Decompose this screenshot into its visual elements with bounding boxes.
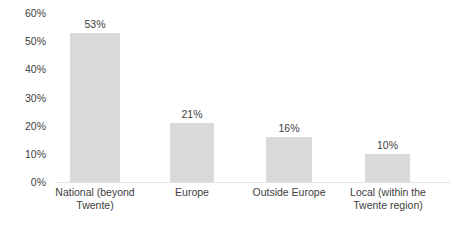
bar-europe[interactable] — [170, 123, 214, 182]
y-tick-label-60: 60% — [25, 8, 46, 19]
x-tick-label-europe-line1: Europe — [147, 186, 237, 199]
x-tick-label-local: Local (within the Twente region) — [339, 186, 437, 212]
x-tick-label-local-line2: Twente region) — [339, 199, 437, 212]
bar-value-national: 53% — [70, 18, 120, 30]
bar-outside-europe[interactable] — [266, 137, 312, 182]
x-axis-baseline — [56, 182, 450, 183]
x-tick-label-national: National (beyond Twente) — [42, 186, 148, 212]
bar-national[interactable] — [70, 33, 120, 182]
x-tick-label-national-line1: National (beyond — [42, 186, 148, 199]
bars-layer: 53% 21% 16% 10% — [56, 0, 450, 182]
x-tick-label-outside-europe: Outside Europe — [241, 186, 337, 199]
y-tick-label-30: 30% — [25, 92, 46, 103]
bar-value-outside-europe: 16% — [266, 122, 312, 134]
x-axis: National (beyond Twente) Europe Outside … — [56, 186, 450, 232]
bar-value-local: 10% — [365, 139, 410, 151]
bar-group-europe: 21% — [170, 0, 214, 182]
bar-chart: 60% 50% 40% 30% 20% 10% 0% 53% 21% 16% 1… — [0, 0, 454, 232]
x-tick-label-local-line1: Local (within the — [339, 186, 437, 199]
x-tick-label-outside-europe-line1: Outside Europe — [241, 186, 337, 199]
x-tick-label-europe: Europe — [147, 186, 237, 199]
bar-group-national: 53% — [70, 0, 120, 182]
bar-value-europe: 21% — [170, 108, 214, 120]
bar-local[interactable] — [365, 154, 410, 182]
y-tick-label-20: 20% — [25, 120, 46, 131]
bar-group-local: 10% — [365, 0, 410, 182]
x-tick-label-national-line2: Twente) — [42, 199, 148, 212]
y-tick-label-50: 50% — [25, 36, 46, 47]
bar-group-outside-europe: 16% — [266, 0, 312, 182]
y-tick-label-40: 40% — [25, 64, 46, 75]
y-tick-label-10: 10% — [25, 148, 46, 159]
